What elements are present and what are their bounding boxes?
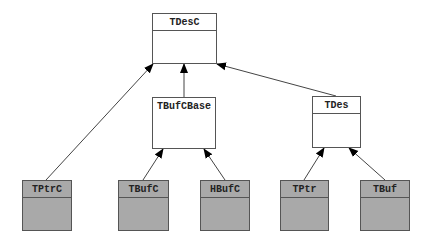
class-tbuf[interactable]: TBuf xyxy=(360,180,410,231)
class-name-tbufc: TBufC xyxy=(119,181,168,198)
inherits-edge-tdes-to-tdesc xyxy=(217,64,336,96)
inherits-edge-tptr-to-tdes xyxy=(304,148,324,180)
inherits-edge-tptrc-to-tdesc xyxy=(46,64,153,180)
class-name-hbufc: HBufC xyxy=(201,181,249,198)
inherits-edge-tbuf-to-tdes xyxy=(349,148,385,180)
class-name-tptr: TPtr xyxy=(281,181,328,198)
class-tbufcbase[interactable]: TBufCBase xyxy=(152,97,216,149)
class-name-tbuf: TBuf xyxy=(361,181,409,198)
class-tdesc[interactable]: TDesC xyxy=(152,13,217,64)
inherits-edge-hbufc-to-tbufcbase xyxy=(204,149,225,180)
class-tbufc[interactable]: TBufC xyxy=(118,180,169,231)
class-tptrc[interactable]: TPtrC xyxy=(22,180,72,231)
class-tptr[interactable]: TPtr xyxy=(280,180,329,231)
class-name-tptrc: TPtrC xyxy=(23,181,71,198)
class-name-tdesc: TDesC xyxy=(153,14,216,31)
class-hbufc[interactable]: HBufC xyxy=(200,180,250,231)
class-name-tbufcbase: TBufCBase xyxy=(153,98,215,115)
class-diagram: TDesC TBufCBase TDes TPtrC TBufC HBufC T… xyxy=(0,0,426,242)
class-name-tdes: TDes xyxy=(313,97,360,114)
class-tdes[interactable]: TDes xyxy=(312,96,361,148)
inherits-edge-tbufc-to-tbufcbase xyxy=(143,149,163,180)
